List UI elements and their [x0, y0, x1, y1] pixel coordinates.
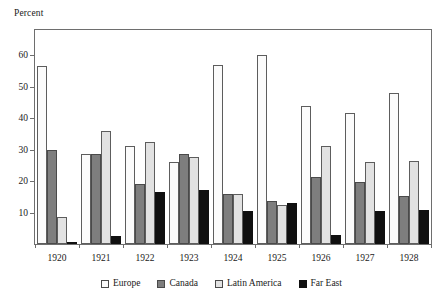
legend-item-europe[interactable]: Europe	[101, 278, 140, 289]
bar-far-east-1927	[375, 211, 384, 244]
bar-canada-1927	[355, 182, 364, 244]
bar-europe-1925	[257, 55, 266, 244]
legend-item-canada[interactable]: Canada	[157, 278, 198, 289]
y-axis-caption: Percent	[14, 8, 44, 19]
bar-far-east-1926	[331, 235, 340, 244]
bar-europe-1921	[81, 154, 90, 244]
legend-item-latin-america[interactable]: Latin America	[215, 278, 282, 289]
bar-canada-1924	[223, 194, 232, 244]
bar-canada-1928	[399, 196, 408, 244]
bar-latin-america-1928	[409, 161, 418, 244]
x-axis-tick-label: 1928	[400, 253, 419, 264]
legend-swatch-latin-america-icon	[215, 280, 223, 288]
plot-area: 1020304050601920192119221923192419251926…	[34, 29, 432, 245]
bar-canada-1923	[179, 154, 188, 244]
bar-latin-america-1922	[145, 142, 154, 244]
x-axis-tick-label: 1927	[356, 253, 375, 264]
x-axis-tick	[299, 244, 300, 248]
bar-latin-america-1921	[101, 131, 110, 244]
y-axis-tick-label: 30	[19, 145, 29, 155]
bar-latin-america-1927	[365, 162, 374, 244]
x-axis-tick-label: 1923	[180, 253, 199, 264]
bar-latin-america-1924	[233, 194, 242, 244]
bar-far-east-1928	[419, 210, 428, 244]
y-axis-tick-label: 20	[19, 176, 29, 186]
bar-far-east-1924	[243, 211, 252, 244]
x-axis-tick-label: 1920	[48, 253, 67, 264]
legend-label: Europe	[113, 278, 140, 289]
x-axis-tick	[79, 244, 80, 248]
y-axis-tick-label: 50	[19, 82, 29, 92]
legend-label: Far East	[311, 278, 342, 289]
y-axis-tick	[30, 181, 35, 182]
bar-far-east-1921	[111, 236, 120, 244]
bar-canada-1926	[311, 177, 320, 244]
bar-latin-america-1925	[277, 205, 286, 244]
y-axis-tick	[30, 150, 35, 151]
x-axis-tick	[343, 244, 344, 248]
legend-item-far-east[interactable]: Far East	[299, 278, 342, 289]
bar-europe-1924	[213, 65, 222, 244]
chart-legend: EuropeCanadaLatin AmericaFar East	[0, 278, 443, 289]
x-axis-tick	[211, 244, 212, 248]
legend-swatch-canada-icon	[157, 280, 165, 288]
grouped-bar-chart: Percent 10203040506019201921192219231924…	[0, 0, 443, 303]
bar-far-east-1925	[287, 203, 296, 244]
x-axis-tick-label: 1925	[268, 253, 287, 264]
bar-europe-1926	[301, 106, 310, 244]
x-axis-tick	[167, 244, 168, 248]
legend-swatch-far-east-icon	[299, 280, 307, 288]
y-axis-tick	[30, 213, 35, 214]
bar-europe-1923	[169, 162, 178, 244]
bar-europe-1922	[125, 146, 134, 245]
bar-canada-1921	[91, 154, 100, 244]
y-axis-tick-label: 40	[19, 113, 29, 123]
bar-latin-america-1923	[189, 157, 198, 244]
y-axis-tick	[30, 87, 35, 88]
legend-label: Canada	[169, 278, 198, 289]
x-axis-tick	[431, 244, 432, 248]
bar-latin-america-1926	[321, 146, 330, 245]
bar-far-east-1923	[199, 190, 208, 244]
bar-far-east-1920	[67, 242, 76, 244]
x-axis-tick-label: 1922	[136, 253, 155, 264]
x-axis-tick	[35, 244, 36, 248]
x-axis-tick	[387, 244, 388, 248]
bar-europe-1928	[389, 93, 398, 244]
x-axis-tick-label: 1924	[224, 253, 243, 264]
legend-label: Latin America	[227, 278, 282, 289]
y-axis-tick-label: 10	[19, 208, 29, 218]
bar-europe-1927	[345, 113, 354, 244]
y-axis-tick-label: 60	[19, 50, 29, 60]
x-axis-tick	[255, 244, 256, 248]
bar-canada-1922	[135, 184, 144, 244]
bar-canada-1920	[47, 150, 56, 244]
bar-far-east-1922	[155, 192, 164, 244]
bar-europe-1920	[37, 66, 46, 244]
x-axis-tick-label: 1926	[312, 253, 331, 264]
y-axis-tick	[30, 55, 35, 56]
legend-swatch-europe-icon	[101, 280, 109, 288]
bar-canada-1925	[267, 201, 276, 244]
x-axis-tick-label: 1921	[92, 253, 111, 264]
x-axis-tick	[123, 244, 124, 248]
y-axis-tick	[30, 118, 35, 119]
bar-latin-america-1920	[57, 217, 66, 244]
